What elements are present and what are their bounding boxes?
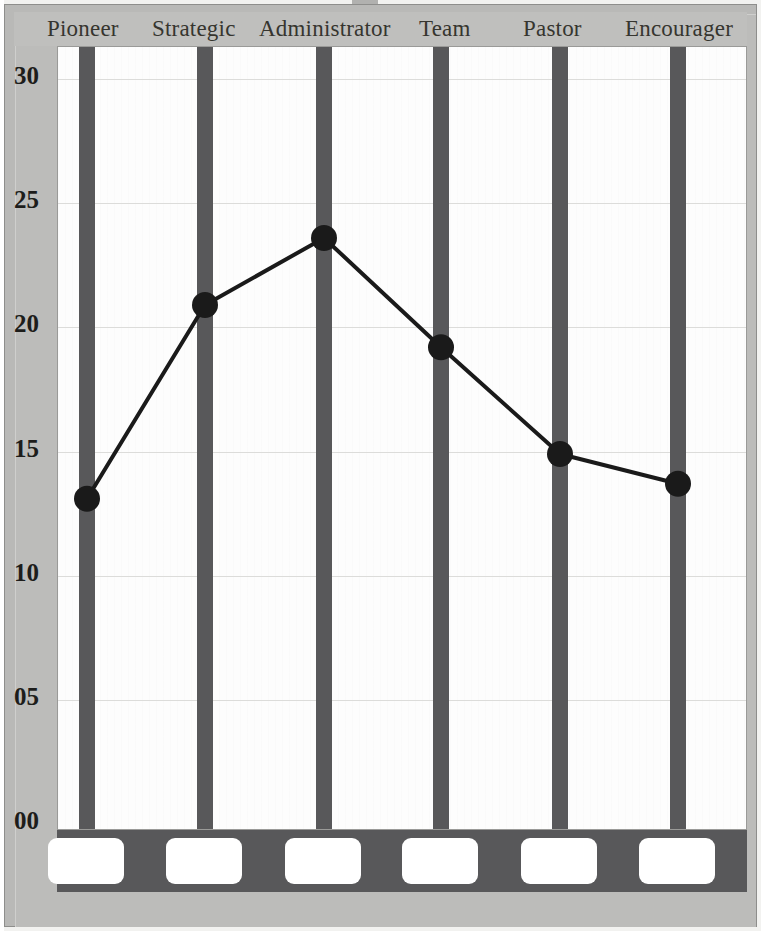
gridline-05 [58,700,746,701]
y-tick-label-20: 20 [14,310,58,338]
answer-box-administrator[interactable] [285,838,361,884]
category-label-strategic: Strategic [152,16,236,42]
category-label-pastor: Pastor [523,16,582,42]
answer-box-encourager[interactable] [639,838,715,884]
category-label-administrator: Administrator [259,16,391,42]
y-tick-label-05: 05 [14,683,58,711]
category-label-team: Team [419,16,471,42]
category-label-pioneer: Pioneer [47,16,119,42]
category-header-band: PioneerStrategicAdministratorTeamPastorE… [14,12,747,46]
category-bar-strategic [197,47,213,829]
answer-box-strategic[interactable] [166,838,242,884]
chart-page: PioneerStrategicAdministratorTeamPastorE… [0,0,761,931]
answer-box-pastor[interactable] [521,838,597,884]
category-bar-pioneer [79,47,95,829]
y-tick-label-30: 30 [14,62,58,90]
y-tick-label-15: 15 [14,435,58,463]
answer-box-pioneer[interactable] [48,838,124,884]
y-tick-label-25: 25 [14,186,58,214]
category-bar-encourager [670,47,686,829]
answer-box-team[interactable] [402,838,478,884]
plot-area [57,46,747,830]
gridline-30 [58,79,746,80]
gridline-20 [58,327,746,328]
answer-box-band [57,830,747,892]
category-bar-team [433,47,449,829]
gridline-25 [58,203,746,204]
category-bar-pastor [552,47,568,829]
y-tick-label-00: 00 [14,807,58,835]
category-label-encourager: Encourager [625,16,733,42]
gridline-10 [58,576,746,577]
category-bar-administrator [316,47,332,829]
plot-background [58,47,746,829]
gridline-15 [58,452,746,453]
y-tick-label-10: 10 [14,559,58,587]
